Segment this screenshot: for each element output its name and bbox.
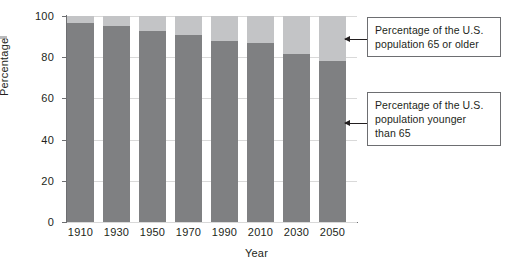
callout-older-population: Percentage of the U.S. population 65 or … [367,17,501,57]
callout-arrow-older [345,39,367,40]
bar-segment-younger-2050 [319,61,346,222]
x-tick-label-2010: 2010 [241,226,281,238]
y-tick-label-0: 0 [48,216,54,228]
x-axis-title: Year [0,247,513,259]
bar-segment-older-1990 [211,16,238,41]
bar-1990 [211,16,238,222]
bar-2010 [247,16,274,222]
y-tick-label-20: 20 [41,175,54,187]
x-tick-label-1910: 1910 [61,226,101,238]
bar-segment-older-1910 [67,16,94,23]
x-tick-label-1950: 1950 [133,226,173,238]
x-tick-label-1930: 1930 [97,226,137,238]
bar-2030 [283,16,310,222]
bar-segment-younger-1930 [103,26,130,222]
x-tick-label-2030: 2030 [277,226,317,238]
y-tick-label-80: 80 [41,51,54,63]
bar-segment-older-1930 [103,16,130,26]
bar-segment-younger-1970 [175,35,202,222]
bar-segment-older-1970 [175,16,202,35]
y-tick-label-40: 40 [41,134,54,146]
y-tick-label-60: 60 [41,92,54,104]
x-tick-label-1970: 1970 [169,226,209,238]
bar-segment-older-2030 [283,16,310,54]
plot-area [67,16,357,222]
callout-younger-population: Percentage of the U.S. population younge… [367,92,501,146]
chart-figure: 020406080100 Percentage Year 19101930195… [0,0,513,266]
bar-segment-younger-1950 [139,31,166,222]
y-tick-label-100: 100 [35,10,54,22]
callout-older-line2: population 65 or older [375,37,493,51]
bar-segment-younger-2030 [283,54,310,222]
bar-1910 [67,16,94,222]
callout-younger-line3: than 65 [375,126,493,140]
callout-younger-line1: Percentage of the U.S. [375,98,493,112]
y-tick-0 [62,222,67,223]
bar-segment-younger-2010 [247,43,274,222]
x-tick-label-1990: 1990 [205,226,245,238]
bar-1970 [175,16,202,222]
callout-older-line1: Percentage of the U.S. [375,23,493,37]
callout-arrow-younger [345,123,367,124]
callout-younger-line2: population younger [375,112,493,126]
bar-2050 [319,16,346,222]
bar-segment-older-2050 [319,16,346,61]
bar-segment-older-1950 [139,16,166,31]
gridline-0 [67,222,357,223]
bar-segment-younger-1990 [211,41,238,222]
bar-segment-older-2010 [247,16,274,43]
bar-segment-younger-1910 [67,23,94,222]
y-axis-title: Percentage [0,38,10,96]
bar-1930 [103,16,130,222]
bar-1950 [139,16,166,222]
x-tick-label-2050: 2050 [313,226,353,238]
